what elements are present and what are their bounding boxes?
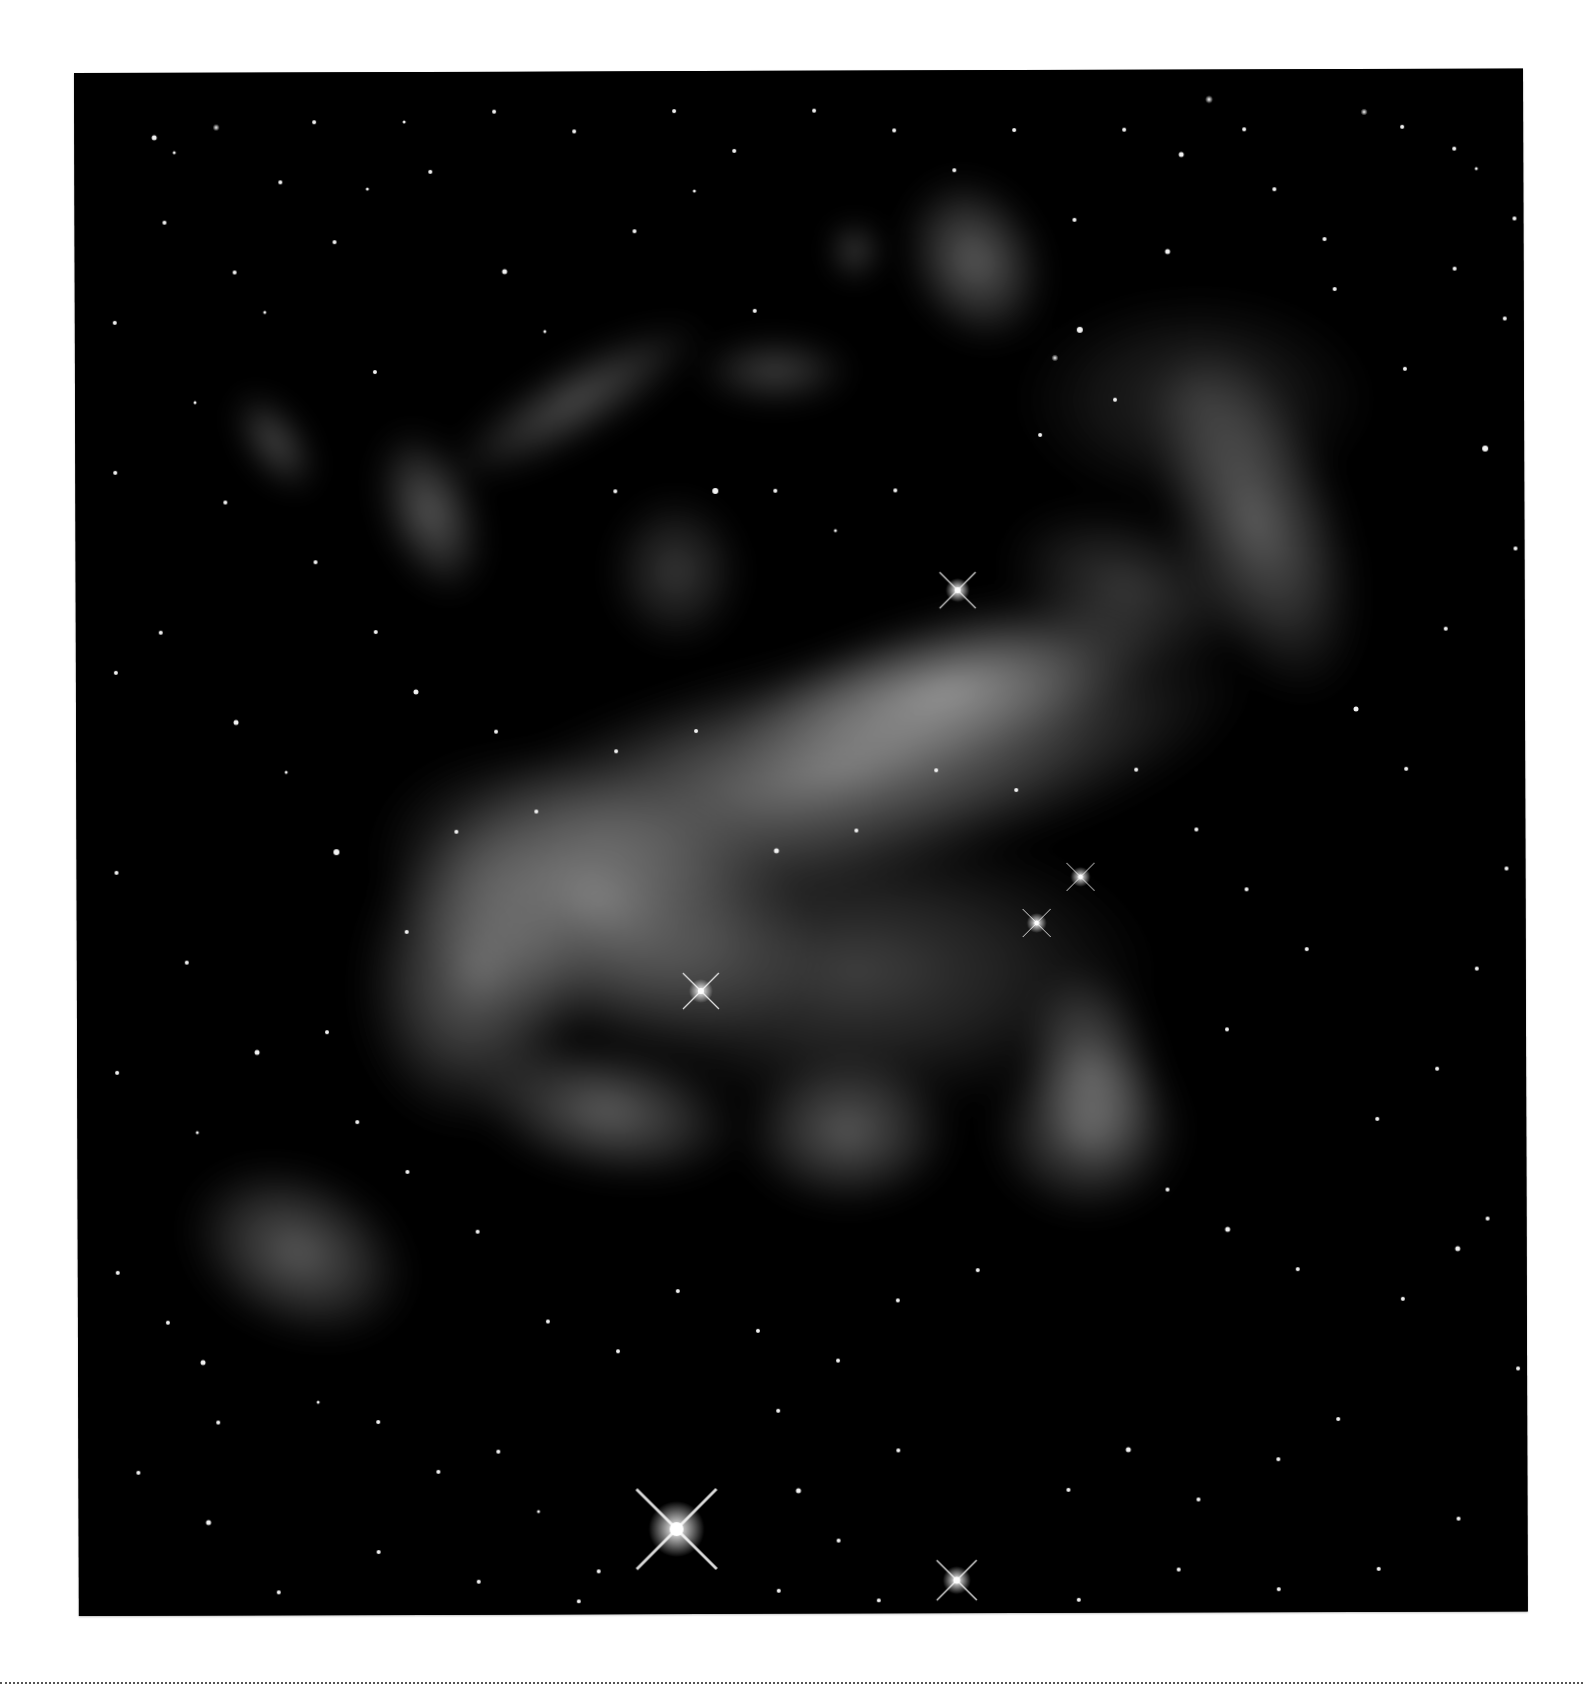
star <box>436 1470 440 1474</box>
star <box>492 110 496 114</box>
star <box>1012 128 1016 132</box>
star <box>1276 1457 1280 1461</box>
star <box>1014 788 1018 792</box>
nebula-cloud <box>695 336 855 407</box>
star <box>159 631 163 635</box>
star <box>732 149 736 153</box>
star <box>255 1050 260 1055</box>
star <box>1361 108 1368 115</box>
star <box>333 849 339 855</box>
star <box>896 1298 900 1302</box>
star <box>934 768 938 772</box>
star <box>1444 627 1448 631</box>
star <box>1134 768 1138 772</box>
star <box>543 330 546 333</box>
star <box>413 689 418 694</box>
star <box>812 109 816 113</box>
star <box>428 170 432 174</box>
star <box>1377 1567 1381 1571</box>
nebula-cloud <box>829 220 879 280</box>
star <box>1475 167 1478 170</box>
bright-star-icon <box>1023 909 1051 937</box>
dotted-separator-line <box>0 1682 1583 1684</box>
star <box>234 720 239 725</box>
star <box>1196 1497 1200 1501</box>
star <box>113 471 117 475</box>
star <box>1194 827 1198 831</box>
star <box>1177 1568 1181 1572</box>
star <box>1277 1587 1281 1591</box>
star <box>377 1550 381 1554</box>
star <box>572 129 576 133</box>
star <box>952 168 956 172</box>
star <box>233 270 237 274</box>
star <box>1435 1067 1439 1071</box>
star <box>196 1131 199 1134</box>
star <box>1401 1297 1405 1301</box>
star <box>836 1359 840 1363</box>
star <box>1038 433 1042 437</box>
star <box>753 309 757 313</box>
star <box>537 1510 540 1513</box>
nebula-cloud <box>1015 289 1376 510</box>
star <box>114 671 118 675</box>
star <box>597 1569 601 1573</box>
star <box>325 1030 329 1034</box>
star <box>672 109 676 113</box>
star <box>1516 1366 1520 1370</box>
star <box>1077 327 1083 333</box>
star <box>223 501 227 505</box>
star <box>1333 287 1337 291</box>
star <box>355 1120 359 1124</box>
star <box>773 489 777 493</box>
star <box>854 829 858 833</box>
star <box>877 1598 881 1602</box>
star <box>405 930 409 934</box>
star <box>616 1349 620 1353</box>
star <box>1403 367 1407 371</box>
star <box>285 771 288 774</box>
star <box>577 1599 581 1603</box>
star <box>756 1329 760 1333</box>
star <box>152 135 157 140</box>
star <box>162 221 166 225</box>
star <box>115 1071 119 1075</box>
star <box>1122 128 1126 132</box>
star <box>194 401 197 404</box>
star <box>376 1420 380 1424</box>
star <box>694 729 698 733</box>
star <box>1475 967 1479 971</box>
star <box>213 124 220 131</box>
star <box>278 180 282 184</box>
star <box>693 190 696 193</box>
star <box>892 128 896 132</box>
star <box>1179 152 1184 157</box>
star <box>206 1520 211 1525</box>
star <box>1503 317 1507 321</box>
star <box>1505 866 1509 870</box>
star <box>477 1580 481 1584</box>
star <box>476 1230 480 1234</box>
star <box>774 848 779 853</box>
star <box>333 240 337 244</box>
star <box>173 151 176 154</box>
star <box>374 630 378 634</box>
star <box>1051 354 1058 361</box>
star <box>1225 1227 1230 1232</box>
star <box>896 1448 900 1452</box>
star <box>1404 767 1408 771</box>
star <box>837 1539 841 1543</box>
star <box>263 311 266 314</box>
star <box>317 1401 320 1404</box>
star <box>373 370 377 374</box>
star <box>216 1421 220 1425</box>
star <box>201 1360 206 1365</box>
star <box>1452 147 1456 151</box>
star <box>166 1321 170 1325</box>
star <box>534 810 538 814</box>
star <box>1336 1417 1340 1421</box>
star <box>613 489 617 493</box>
nebula-photo <box>74 68 1528 1616</box>
star <box>1165 249 1170 254</box>
star <box>1225 1027 1229 1031</box>
